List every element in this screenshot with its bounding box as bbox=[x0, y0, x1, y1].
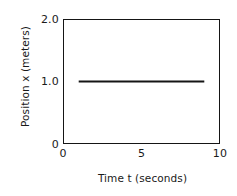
position-time-graph: Position x (meters) 2.0 1.0 0 0 5 10 Tim… bbox=[0, 0, 237, 196]
x-tick-label-5: 5 bbox=[122, 148, 162, 159]
series-svg bbox=[63, 19, 220, 144]
y-tick-label-2: 2.0 bbox=[19, 14, 59, 25]
x-axis-title: Time t (seconds) bbox=[55, 172, 230, 184]
x-tick-label-0: 0 bbox=[43, 148, 83, 159]
x-tick-label-10: 10 bbox=[200, 148, 237, 159]
y-tick-label-1: 1.0 bbox=[19, 76, 59, 87]
data-layer bbox=[63, 19, 220, 144]
